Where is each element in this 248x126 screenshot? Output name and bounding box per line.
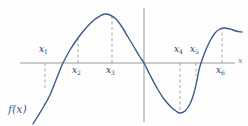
- tick-label-x2: x2: [72, 66, 81, 75]
- tick-label-subscript: 1: [44, 48, 48, 55]
- tick-label-subscript: 4: [179, 48, 183, 55]
- tick-label-x5: x5: [190, 45, 199, 54]
- x-axis-label: x: [238, 57, 243, 65]
- axes-group: [20, 8, 235, 122]
- tick-label-subscript: 6: [221, 69, 225, 76]
- tick-label-x4: x4: [174, 45, 183, 54]
- tick-label-subscript: 5: [195, 48, 199, 55]
- tick-label-subscript: 2: [77, 69, 81, 76]
- tick-label-x6: x6: [216, 66, 225, 75]
- function-curve: [33, 14, 242, 124]
- tick-label-x3: x3: [106, 66, 115, 75]
- tick-label-x1: x1: [39, 45, 48, 54]
- function-graph-figure: x1x2x3x4x5x6 f(x) x: [0, 0, 248, 126]
- graph-canvas: [0, 0, 248, 126]
- function-label: f(x): [8, 104, 27, 115]
- tick-label-subscript: 3: [111, 69, 115, 76]
- marker-dashed-lines-group: [45, 15, 222, 113]
